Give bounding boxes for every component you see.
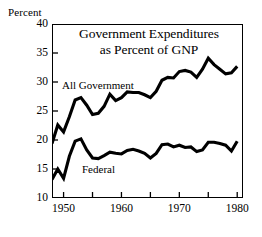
series-label-all-government: All Government xyxy=(62,80,134,91)
y-axis-tick-label: 30 xyxy=(26,76,48,88)
x-axis-tick-label: 1960 xyxy=(110,202,133,214)
x-axis-tick-label: 1970 xyxy=(168,202,191,214)
chart-title: Government Expenditures as Percent of GN… xyxy=(60,26,238,57)
chart-figure: Percent 40353025201510 Government Expend… xyxy=(0,0,262,237)
x-axis-tick-label: 1980 xyxy=(226,202,249,214)
plot-area: Government Expenditures as Percent of GN… xyxy=(52,24,243,198)
x-axis-tick-label: 1950 xyxy=(52,202,75,214)
y-axis-tick-labels: 40353025201510 xyxy=(22,24,48,198)
y-axis-tick-label: 25 xyxy=(26,105,48,117)
axis-tick-marks xyxy=(52,53,237,198)
series-line-all-government xyxy=(52,58,237,143)
y-axis-tick-label: 35 xyxy=(26,47,48,59)
y-axis-tick-label: 15 xyxy=(26,163,48,175)
x-axis-tick-labels: 1950196019701980 xyxy=(0,202,262,222)
series-line-federal xyxy=(52,139,237,180)
y-axis-tick-label: 20 xyxy=(26,134,48,146)
series-label-federal: Federal xyxy=(82,164,115,175)
chart-title-line-2: as Percent of GNP xyxy=(60,42,238,58)
y-axis-tick-label: 40 xyxy=(26,18,48,30)
chart-title-line-1: Government Expenditures xyxy=(60,26,238,42)
